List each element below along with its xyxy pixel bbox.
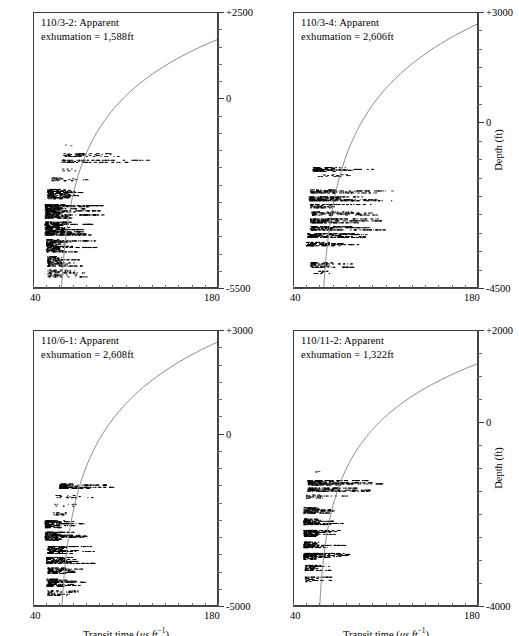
depth-axis-tick bbox=[218, 537, 222, 538]
x-axis-title: Transit time (μs ft−1) bbox=[293, 626, 479, 636]
plot-area bbox=[33, 330, 218, 606]
transit-time-axis-label-max: 180 bbox=[464, 610, 480, 621]
depth-axis-label-zero: 0 bbox=[486, 417, 491, 428]
depth-axis-tick bbox=[478, 49, 482, 50]
transit-time-axis-tick bbox=[293, 285, 294, 288]
transit-time-axis-tick bbox=[86, 285, 87, 288]
transit-time-axis-tick bbox=[412, 603, 413, 606]
transit-time-axis bbox=[33, 606, 219, 607]
transit-time-axis-tick bbox=[319, 603, 320, 606]
depth-axis-tick bbox=[218, 236, 222, 237]
depth-axis-label-bottom: -5500 bbox=[226, 283, 251, 294]
depth-axis-label-bottom: -4500 bbox=[486, 283, 511, 294]
depth-axis-tick bbox=[218, 330, 224, 331]
transit-time-axis-tick bbox=[46, 285, 47, 288]
transit-time-axis-tick bbox=[59, 285, 60, 288]
depth-axis-tick bbox=[218, 116, 222, 117]
data-plot-svg bbox=[34, 331, 218, 606]
scatter-points bbox=[303, 471, 383, 582]
plot-area bbox=[293, 12, 478, 288]
transit-time-axis bbox=[293, 606, 479, 607]
transit-time-axis-label-max: 180 bbox=[464, 292, 480, 303]
x-axis-title-suffix: ) bbox=[426, 629, 430, 636]
depth-axis-tick bbox=[478, 353, 482, 354]
depth-axis: +30000-4500 bbox=[478, 12, 479, 288]
depth-axis-tick bbox=[478, 560, 482, 561]
depth-axis-tick bbox=[478, 196, 482, 197]
transit-time-axis-tick bbox=[425, 603, 426, 606]
transit-time-axis bbox=[33, 288, 219, 289]
transit-time-axis-tick bbox=[372, 285, 373, 288]
depth-axis-tick bbox=[218, 271, 222, 272]
plot-panel-110-3-2: 110/3-2: Apparentexhumation = 1,588ft+25… bbox=[0, 0, 259, 318]
depth-axis: +30000-5000 bbox=[218, 330, 219, 606]
panel-title-line1: 110/3-2: Apparent bbox=[41, 16, 134, 30]
data-plot-svg bbox=[294, 13, 478, 288]
transit-time-axis-tick bbox=[165, 603, 166, 606]
panel-title-line2: exhumation = 2,606ft bbox=[301, 30, 394, 44]
transit-time-axis-tick bbox=[478, 285, 479, 288]
depth-axis-tick bbox=[218, 365, 222, 366]
depth-axis-tick bbox=[478, 514, 482, 515]
transit-time-axis-tick bbox=[452, 285, 453, 288]
transit-time-axis-tick bbox=[192, 285, 193, 288]
transit-time-axis-tick bbox=[452, 603, 453, 606]
panel-annotation: 110/6-1: Apparentexhumation = 2,608ft bbox=[41, 334, 134, 361]
depth-axis-tick bbox=[478, 30, 482, 31]
normal-compaction-curve bbox=[61, 39, 218, 288]
x-axis-title-prefix: Transit time ( bbox=[343, 629, 400, 636]
transit-time-axis-tick bbox=[333, 603, 334, 606]
depth-axis-tick bbox=[478, 141, 482, 142]
depth-axis-tick bbox=[478, 445, 482, 446]
transit-time-axis-tick bbox=[399, 285, 400, 288]
transit-time-axis-tick bbox=[218, 285, 219, 288]
panel-annotation: 110/3-4: Apparentexhumation = 2,606ft bbox=[301, 16, 394, 43]
transit-time-axis-tick bbox=[205, 285, 206, 288]
transit-time-axis-tick bbox=[165, 285, 166, 288]
transit-time-axis-tick bbox=[33, 285, 34, 288]
transit-time-axis-tick bbox=[178, 603, 179, 606]
depth-axis-label-bottom: -4000 bbox=[486, 601, 511, 612]
transit-time-axis-tick bbox=[478, 603, 479, 606]
transit-time-axis-tick bbox=[152, 285, 153, 288]
depth-axis-tick bbox=[218, 520, 222, 521]
depth-axis-tick bbox=[218, 29, 222, 30]
depth-axis-tick bbox=[218, 554, 222, 555]
plot-panel-110-6-1: 110/6-1: Apparentexhumation = 2,608ft+30… bbox=[0, 318, 259, 636]
y-axis-title: Depth (ft) bbox=[493, 129, 504, 171]
x-axis-title-exponent: −1 bbox=[418, 626, 426, 635]
depth-axis-label-top: +2000 bbox=[486, 325, 513, 336]
normal-compaction-curve bbox=[320, 363, 478, 606]
x-axis-title-unit: μs ft bbox=[400, 629, 418, 636]
transit-time-axis-tick bbox=[46, 603, 47, 606]
plot-area bbox=[33, 12, 218, 288]
transit-time-axis-tick bbox=[112, 285, 113, 288]
panel-title-line1: 110/3-4: Apparent bbox=[301, 16, 394, 30]
depth-axis-tick bbox=[478, 159, 482, 160]
transit-time-axis-tick bbox=[386, 603, 387, 606]
depth-axis-tick bbox=[218, 485, 222, 486]
depth-axis-tick bbox=[478, 376, 482, 377]
transit-time-axis-tick bbox=[438, 285, 439, 288]
depth-axis-label-bottom: -5000 bbox=[226, 601, 251, 612]
depth-axis-tick bbox=[478, 104, 482, 105]
scatter-points bbox=[306, 167, 394, 274]
transit-time-axis-tick bbox=[306, 603, 307, 606]
transit-time-axis-tick bbox=[99, 285, 100, 288]
transit-time-axis-tick bbox=[139, 603, 140, 606]
depth-axis-tick bbox=[218, 347, 222, 348]
transit-time-axis-tick bbox=[465, 285, 466, 288]
plot-panel-110-11-2: 110/11-2: Apparentexhumation = 1,322ft+2… bbox=[260, 318, 519, 636]
transit-time-axis-tick bbox=[139, 285, 140, 288]
depth-axis: +20000-4000 bbox=[478, 330, 479, 606]
transit-time-axis-tick bbox=[372, 603, 373, 606]
transit-time-axis-label-min: 40 bbox=[290, 292, 301, 303]
normal-compaction-curve bbox=[62, 341, 218, 606]
transit-time-axis-tick bbox=[218, 603, 219, 606]
depth-axis-tick bbox=[218, 503, 222, 504]
transit-time-axis-tick bbox=[438, 603, 439, 606]
transit-time-axis-tick bbox=[346, 603, 347, 606]
depth-axis-tick bbox=[218, 133, 222, 134]
panel-title-line2: exhumation = 2,608ft bbox=[41, 348, 134, 362]
depth-axis-tick bbox=[218, 167, 222, 168]
